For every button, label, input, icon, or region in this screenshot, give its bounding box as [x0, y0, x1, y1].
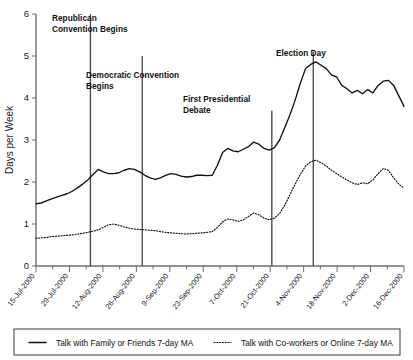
event-annotation-label: Democratic Convention	[86, 70, 179, 80]
series-line-coworkers	[36, 160, 404, 238]
x-tick-label: 26-Aug-2000	[104, 272, 137, 311]
y-tick-label: 2	[24, 176, 29, 187]
event-annotation-label: Debate	[183, 105, 211, 115]
x-tick-label: 9-Sep-2000	[140, 272, 171, 308]
y-tick-label: 1	[24, 218, 29, 229]
x-tick-label: 4-Nov-2000	[273, 272, 304, 308]
chart-figure: 0123456Days per Week15-Jul-200029-Jul-20…	[0, 0, 413, 360]
x-tick-label: 29-Jul-2000	[39, 272, 70, 308]
x-tick-label: 23-Sep-2000	[170, 272, 203, 311]
x-tick-label: 16-Dec-2000	[371, 272, 404, 311]
y-tick-label: 5	[24, 50, 29, 61]
y-tick-label: 6	[24, 8, 29, 19]
x-tick-label: 15-Jul-2000	[5, 272, 36, 308]
event-annotation-label: Begins	[86, 81, 114, 91]
x-tick-label: 2-Dec-2000	[340, 272, 371, 308]
x-tick-label: 7-Oct-2000	[207, 272, 237, 307]
x-tick-label: 18-Nov-2000	[304, 272, 337, 311]
event-annotation-label: Election Day	[276, 48, 326, 58]
chart-canvas: 0123456Days per Week15-Jul-200029-Jul-20…	[0, 0, 413, 360]
x-tick-label: 21-Oct-2000	[238, 272, 270, 310]
y-tick-label: 4	[24, 92, 29, 103]
y-tick-label: 3	[24, 134, 29, 145]
legend-label-coworkers: Talk with Co-workers or Online 7-day MA	[241, 338, 393, 348]
x-tick-label: 12-Aug-2000	[70, 272, 103, 311]
event-annotation-label: Convention Begins	[52, 24, 128, 34]
y-tick-label: 0	[24, 260, 29, 271]
legend-label-family: Talk with Family or Friends 7-day MA	[56, 338, 194, 348]
event-annotation-label: First Presidential	[183, 94, 250, 104]
y-axis-title: Days per Week	[4, 105, 15, 174]
event-annotation-label: Republican	[52, 13, 97, 23]
